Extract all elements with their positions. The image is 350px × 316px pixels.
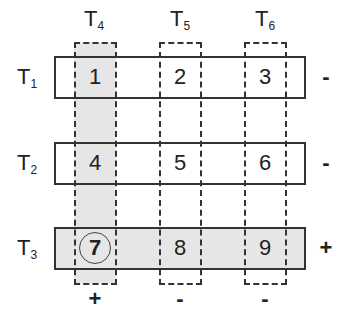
column-sign-t5: - bbox=[170, 288, 190, 310]
cell-6: 6 bbox=[244, 152, 286, 174]
row-sign-t2: - bbox=[316, 152, 336, 174]
column-sign-t6: - bbox=[255, 288, 275, 310]
cell-7-circled: 7 bbox=[79, 232, 111, 264]
cell-5: 5 bbox=[159, 152, 201, 174]
column-sign-t4: + bbox=[85, 288, 105, 310]
row-label-t2: T2 bbox=[17, 152, 37, 174]
column-label-t5: T5 bbox=[170, 8, 190, 30]
row-sign-t1: - bbox=[316, 66, 336, 88]
column-label-t6: T6 bbox=[255, 8, 275, 30]
cell-8: 8 bbox=[159, 237, 201, 259]
cell-2: 2 bbox=[159, 66, 201, 88]
cell-1: 1 bbox=[74, 66, 116, 88]
row-sign-t3: + bbox=[316, 237, 336, 259]
row-label-t1: T1 bbox=[17, 66, 37, 88]
cell-3: 3 bbox=[244, 66, 286, 88]
cell-9: 9 bbox=[244, 237, 286, 259]
cell-4: 4 bbox=[74, 152, 116, 174]
column-label-t4: T4 bbox=[84, 8, 104, 30]
row-label-t3: T3 bbox=[17, 237, 37, 259]
